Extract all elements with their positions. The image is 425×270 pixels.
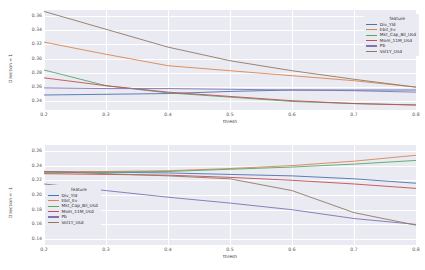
x-tick-label: 0.8 — [401, 113, 425, 118]
series-line — [44, 70, 416, 105]
legend-color-swatch — [48, 200, 59, 201]
y-tick-label: 0.24 — [2, 163, 42, 168]
y-axis-ticks-bottom: 0.260.240.220.200.180.160.14 — [0, 145, 42, 245]
y-tick-label: 0.26 — [2, 85, 42, 90]
legend-color-swatch — [366, 40, 377, 41]
y-tick-label: 0.22 — [2, 178, 42, 183]
series-lines-top — [44, 10, 416, 110]
x-tick-label: 0.4 — [153, 248, 183, 253]
x-tick-label: 0.8 — [401, 248, 425, 253]
x-axis-label-top: thresh — [44, 119, 416, 124]
legend-item-label: Vol1Y_Usd — [380, 49, 402, 54]
legend-color-swatch — [366, 29, 377, 30]
legend-items-bottom: Div_YldEbit_EvMkt_Cap_Bil_UsdMom_11M_Usd… — [48, 193, 98, 225]
legend-color-swatch — [366, 35, 377, 36]
x-tick-label: 0.5 — [215, 113, 245, 118]
x-tick-label: 0.7 — [339, 113, 369, 118]
y-tick-label: 0.36 — [2, 13, 42, 18]
legend-color-swatch — [366, 45, 377, 46]
x-tick-label: 0.4 — [153, 113, 183, 118]
x-tick-label: 0.3 — [91, 113, 121, 118]
series-line — [44, 11, 416, 87]
legend-color-swatch — [48, 216, 59, 217]
y-tick-label: 0.34 — [2, 28, 42, 33]
plot-area-top — [44, 10, 416, 110]
y-tick-label: 0.24 — [2, 99, 42, 104]
y-tick-label: 0.16 — [2, 222, 42, 227]
legend-bottom: feature Div_YldEbit_EvMkt_Cap_Bil_UsdMom… — [46, 185, 101, 227]
y-tick-label: 0.32 — [2, 42, 42, 47]
y-tick-label: 0.30 — [2, 56, 42, 61]
x-tick-label: 0.7 — [339, 248, 369, 253]
x-tick-label: 0.2 — [29, 248, 59, 253]
x-tick-label: 0.3 — [91, 248, 121, 253]
legend-color-swatch — [48, 222, 59, 223]
y-tick-label: 0.14 — [2, 237, 42, 242]
legend-color-swatch — [366, 24, 377, 25]
series-line — [44, 160, 416, 173]
legend-top: feature Div_YldEbit_EvMkt_Cap_Bil_UsdMom… — [364, 14, 419, 56]
legend-color-swatch — [48, 211, 59, 212]
x-tick-label: 0.5 — [215, 248, 245, 253]
grid-line-vertical — [416, 145, 417, 245]
legend-color-swatch — [366, 51, 377, 52]
legend-item[interactable]: Vol1Y_Usd — [48, 220, 98, 225]
legend-title-bottom: feature — [48, 187, 98, 192]
legend-item-label: Vol1Y_Usd — [62, 220, 84, 225]
x-axis-label-bottom: thresh — [44, 254, 416, 259]
chart-page: Direction = 1 0.360.340.320.300.280.260.… — [0, 0, 425, 270]
y-tick-label: 0.20 — [2, 193, 42, 198]
legend-items-top: Div_YldEbit_EvMkt_Cap_Bil_UsdMom_11M_Usd… — [366, 22, 416, 54]
legend-title-top: feature — [366, 16, 416, 21]
legend-color-swatch — [48, 206, 59, 207]
y-tick-label: 0.26 — [2, 149, 42, 154]
chart-panel-bottom: Direction = -1 0.260.240.220.200.180.160… — [0, 135, 425, 270]
y-axis-ticks-top: 0.360.340.320.300.280.260.24 — [0, 10, 42, 110]
legend-color-swatch — [48, 195, 59, 196]
chart-panel-top: Direction = 1 0.360.340.320.300.280.260.… — [0, 0, 425, 135]
x-tick-label: 0.6 — [277, 113, 307, 118]
x-tick-label: 0.6 — [277, 248, 307, 253]
y-tick-label: 0.28 — [2, 71, 42, 76]
legend-item[interactable]: Vol1Y_Usd — [366, 49, 416, 54]
y-tick-label: 0.18 — [2, 207, 42, 212]
x-tick-label: 0.2 — [29, 113, 59, 118]
